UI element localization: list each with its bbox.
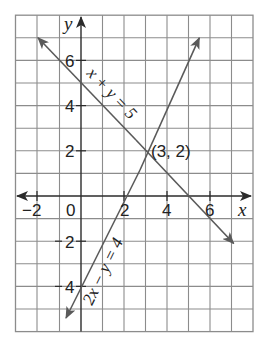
y-axis-label: y [62,13,73,34]
grid-lines [16,15,254,331]
y-tick-label-2: 2 [65,142,74,161]
x-tick-label-0: 0 [66,201,75,220]
x-tick-label-neg2: −2 [22,201,41,220]
coordinate-graph: −2 0 2 4 6 6 4 2 2 4 y x x + y = 5 2x − … [0,0,259,343]
y-tick-label-neg2: 2 [65,233,74,252]
x-tick-label-4: 4 [162,201,171,220]
x-tick-label-2: 2 [120,201,129,220]
x-tick-label-6: 6 [205,201,214,220]
y-tick-label-neg4: 4 [65,278,74,297]
y-tick-label-4: 4 [65,97,74,116]
intersection-label: (3, 2) [151,142,191,161]
y-tick-label-6: 6 [65,52,74,71]
x-axis-label: x [237,199,247,220]
